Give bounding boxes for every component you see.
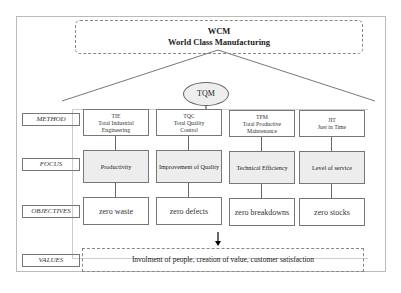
connector — [188, 136, 189, 150]
connector — [261, 184, 262, 198]
method-box-jit: JIT Just in Time — [299, 110, 365, 137]
method-name: Total Productive — [230, 121, 294, 128]
focus-box-productivity: Productivity — [83, 150, 149, 183]
method-name-2: Control — [157, 127, 221, 134]
method-box-tpm: TPM Total Productive Maintenance — [229, 110, 295, 137]
connector — [261, 137, 262, 151]
focus-box-quality: Improvement of Quality — [156, 150, 222, 183]
label-values: VALUES — [22, 254, 80, 267]
label-objectives: OBJECTIVES — [22, 205, 80, 218]
wcm-subtitle: World Class Manufacturing — [76, 37, 362, 48]
method-name: Total Industrial — [84, 120, 148, 127]
connector — [331, 137, 332, 151]
objective-box-zero-stocks: zero stocks — [299, 198, 365, 226]
objective-box-zero-defects: zero defects — [156, 197, 222, 225]
label-method: METHOD — [22, 113, 80, 126]
objective-box-zero-breakdowns: zero breakdowns — [229, 198, 295, 226]
method-name-2: Engineering — [84, 127, 148, 134]
method-name: Just in Time — [300, 124, 364, 131]
method-box-tie: TIE Total Industrial Engineering — [83, 109, 149, 136]
wcm-header-box: WCM World Class Manufacturing — [75, 20, 363, 54]
method-abbr: TIE — [84, 113, 148, 120]
values-box: Involment of people, creation of value, … — [82, 248, 364, 272]
method-abbr: JIT — [300, 117, 364, 124]
objective-box-zero-waste: zero waste — [83, 197, 149, 225]
connector — [115, 183, 116, 197]
wcm-title: WCM — [76, 26, 362, 37]
focus-box-technical-efficiency: Technical Efficiency — [229, 151, 295, 184]
method-abbr: TQC — [157, 113, 221, 120]
tqm-ellipse: TQM — [183, 82, 229, 106]
method-name-2: Maintenance — [230, 128, 294, 135]
focus-box-level-of-service: Level of service — [299, 151, 365, 184]
connector — [188, 183, 189, 197]
connector — [331, 184, 332, 198]
label-focus: FOCUS — [22, 158, 80, 171]
connector — [115, 136, 116, 150]
method-name: Total Quality — [157, 120, 221, 127]
method-abbr: TPM — [230, 114, 294, 121]
method-box-tqc: TQC Total Quality Control — [156, 109, 222, 136]
